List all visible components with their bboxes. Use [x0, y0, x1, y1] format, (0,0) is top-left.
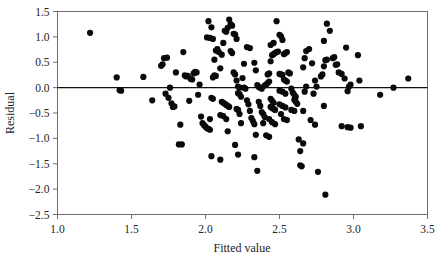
data-point: [241, 61, 247, 67]
data-point: [210, 74, 216, 80]
data-point: [339, 123, 345, 129]
data-point: [247, 45, 253, 51]
data-point: [245, 101, 251, 107]
y-axis-ticks: 1.51.00.50.0−0.5−1.0−1.5−2.0−2.5: [29, 6, 58, 221]
data-point: [207, 127, 213, 133]
data-point: [355, 52, 361, 58]
data-point: [165, 95, 171, 101]
data-point: [226, 104, 232, 110]
data-point: [315, 169, 321, 175]
data-point: [284, 49, 290, 55]
y-tick-label: 0.0: [35, 82, 50, 94]
data-point: [232, 142, 238, 148]
data-point: [229, 23, 235, 29]
data-point: [220, 40, 226, 46]
data-point: [300, 64, 306, 70]
data-point: [257, 103, 263, 109]
data-point: [159, 61, 165, 67]
data-point: [208, 24, 214, 30]
data-point: [275, 48, 281, 54]
data-point: [211, 57, 217, 63]
plot-frame: [58, 12, 428, 215]
data-point: [177, 122, 183, 128]
data-point: [377, 92, 383, 98]
data-point: [268, 58, 274, 64]
data-point: [217, 157, 223, 163]
data-point: [321, 38, 327, 44]
data-point: [270, 40, 276, 46]
data-point: [219, 52, 225, 58]
data-point: [334, 61, 340, 67]
data-point: [273, 18, 279, 24]
residual-plot-figure: 1.51.00.50.0−0.5−1.0−1.5−2.0−2.5 1.01.52…: [0, 0, 441, 259]
data-point: [140, 74, 146, 80]
data-point: [260, 120, 266, 126]
x-tick-label: 2.5: [272, 223, 287, 235]
data-point: [251, 60, 257, 66]
data-point: [303, 84, 309, 90]
data-point: [331, 54, 337, 60]
data-point: [235, 152, 241, 158]
data-points-group: [87, 17, 411, 198]
data-point: [306, 46, 312, 52]
y-tick-label: 0.5: [35, 56, 50, 68]
data-point: [266, 70, 272, 76]
data-point: [284, 78, 290, 84]
data-point: [302, 55, 308, 61]
data-point: [208, 153, 214, 159]
data-point: [180, 49, 186, 55]
x-axis-ticks: 1.01.52.02.53.03.5: [50, 215, 435, 235]
data-point: [194, 69, 200, 75]
data-point: [284, 117, 290, 123]
data-point: [324, 57, 330, 63]
data-point: [299, 163, 305, 169]
data-point: [195, 92, 201, 98]
data-point: [300, 108, 306, 114]
data-point: [225, 128, 231, 134]
data-point: [198, 113, 204, 119]
data-point: [210, 36, 216, 42]
data-point: [297, 148, 303, 154]
data-point: [266, 134, 272, 140]
data-point: [300, 140, 306, 146]
data-point: [87, 30, 93, 36]
data-point: [253, 67, 259, 73]
data-point: [272, 107, 278, 113]
data-point: [343, 44, 349, 50]
data-point: [207, 116, 213, 122]
y-axis-title: Residual: [3, 91, 17, 134]
data-point: [223, 116, 229, 122]
scatter-plot-canvas: 1.51.00.50.0−0.5−1.0−1.5−2.0−2.5 1.01.52…: [0, 0, 441, 259]
y-tick-label: −1.0: [29, 132, 50, 144]
data-point: [242, 86, 248, 92]
data-point: [324, 21, 330, 27]
y-tick-label: −1.5: [29, 158, 50, 170]
data-point: [251, 121, 257, 127]
data-point: [307, 117, 313, 123]
data-point: [282, 104, 288, 110]
data-point: [233, 36, 239, 42]
data-point: [322, 192, 328, 198]
data-point: [114, 74, 120, 80]
data-point: [291, 108, 297, 114]
data-point: [347, 125, 353, 131]
data-point: [294, 101, 300, 107]
data-point: [309, 60, 315, 66]
data-point: [342, 75, 348, 81]
data-point: [254, 168, 260, 174]
data-point: [171, 103, 177, 109]
data-point: [238, 94, 244, 100]
y-tick-label: −0.5: [29, 107, 50, 119]
x-tick-label: 1.5: [124, 223, 139, 235]
data-point: [247, 108, 253, 114]
x-tick-label: 2.0: [198, 223, 213, 235]
x-tick-label: 3.0: [346, 223, 361, 235]
data-point: [238, 120, 244, 126]
data-point: [251, 154, 257, 160]
data-point: [279, 37, 285, 43]
data-point: [189, 76, 195, 82]
data-point: [327, 28, 333, 34]
data-point: [210, 96, 216, 102]
data-point: [239, 75, 245, 81]
data-point: [347, 81, 353, 87]
